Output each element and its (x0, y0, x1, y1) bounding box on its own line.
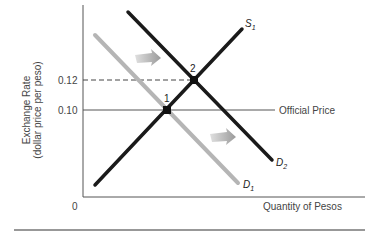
official-price-label: Official Price (279, 105, 335, 116)
point-1-label: 1 (164, 93, 170, 104)
origin-label: 0 (72, 201, 78, 212)
y-axis-label-line1: Exchange Rate (21, 75, 32, 144)
y-axis-label-line2: (dollar price per peso) (32, 61, 43, 158)
y-tick-0.12: 0.12 (58, 75, 78, 86)
s1-label: S1 (245, 18, 256, 31)
y-tick-0.10: 0.10 (58, 105, 78, 116)
equilibrium-point-1 (163, 106, 171, 114)
equilibrium-point-2 (190, 76, 198, 84)
point-2-label: 2 (190, 63, 196, 74)
d2-curve (128, 12, 272, 160)
shift-arrow-icon (210, 128, 236, 145)
d1-label: D1 (243, 179, 254, 192)
x-axis-label: Quantity of Pesos (263, 201, 342, 212)
shift-arrow-icon (135, 49, 161, 66)
d2-label: D2 (276, 157, 287, 170)
exchange-rate-chart: 1 2 S1 D2 D1 Official Price 0.12 0.10 0 … (0, 0, 367, 234)
